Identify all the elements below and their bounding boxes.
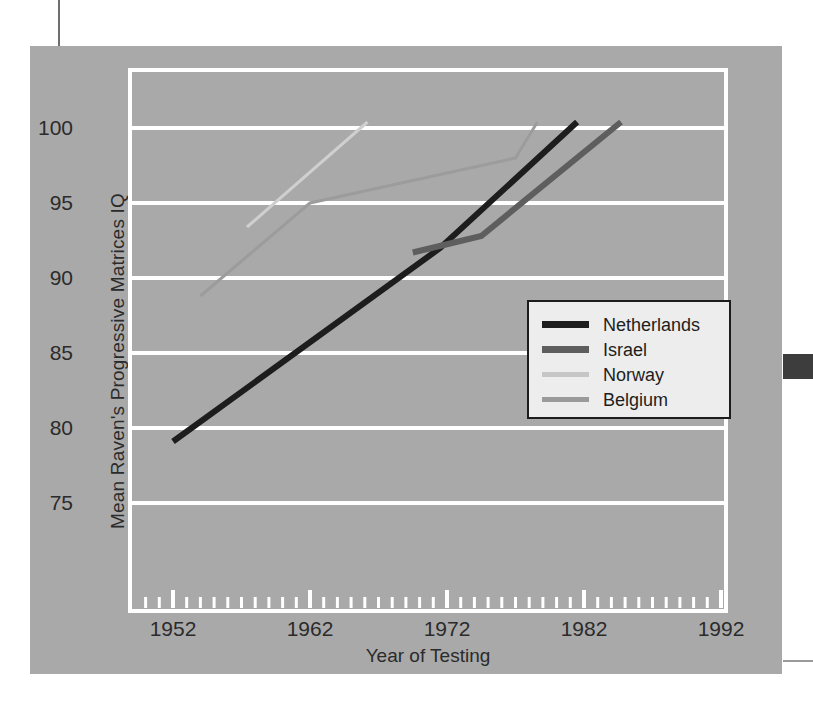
legend[interactable]: Netherlands Israel Norway Belgium — [527, 300, 731, 419]
chart-page: Mean Raven's Progressive Matrices IQ Yea… — [0, 0, 813, 722]
series-line-israel — [413, 122, 621, 253]
legend-item-netherlands[interactable]: Netherlands — [529, 312, 729, 337]
series-line-norway — [247, 122, 368, 227]
legend-item-israel[interactable]: Israel — [529, 337, 729, 362]
legend-label-netherlands: Netherlands — [603, 316, 700, 334]
legend-swatch-belgium — [542, 397, 589, 402]
y-tick-label-100: 100 — [13, 116, 73, 140]
x-tick-label-1962: 1962 — [287, 617, 334, 641]
y-tick-label-75: 75 — [13, 491, 73, 515]
x-tick-label-1972: 1972 — [424, 617, 471, 641]
x-tick-label-1952: 1952 — [150, 617, 197, 641]
y-tick-label-85: 85 — [13, 341, 73, 365]
y-tick-label-80: 80 — [13, 416, 73, 440]
x-tick-label-1992: 1992 — [698, 617, 745, 641]
legend-item-belgium[interactable]: Belgium — [529, 387, 729, 412]
x-minor-ticks-group — [146, 590, 721, 608]
legend-label-israel: Israel — [603, 341, 647, 359]
legend-label-belgium: Belgium — [603, 391, 668, 409]
y-tick-label-95: 95 — [13, 191, 73, 215]
y-tick-label-90: 90 — [13, 266, 73, 290]
x-tick-label-1982: 1982 — [561, 617, 608, 641]
legend-swatch-netherlands — [542, 321, 589, 328]
legend-swatch-norway — [542, 372, 589, 377]
series-line-netherlands — [173, 122, 577, 442]
legend-label-norway: Norway — [603, 366, 664, 384]
legend-item-norway[interactable]: Norway — [529, 362, 729, 387]
legend-swatch-israel — [542, 346, 589, 353]
